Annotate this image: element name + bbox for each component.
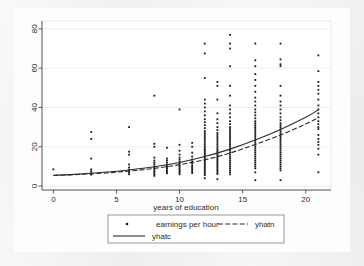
data-point bbox=[229, 169, 231, 171]
data-point bbox=[191, 152, 193, 154]
data-point bbox=[254, 43, 256, 45]
data-point bbox=[280, 166, 282, 168]
data-point bbox=[254, 156, 256, 158]
data-point bbox=[280, 112, 282, 114]
data-point bbox=[254, 166, 256, 168]
data-point bbox=[317, 54, 319, 56]
data-point bbox=[204, 140, 206, 142]
data-point bbox=[280, 58, 282, 60]
data-point bbox=[229, 154, 231, 156]
data-point bbox=[217, 136, 219, 138]
data-point bbox=[254, 65, 256, 67]
data-point bbox=[217, 142, 219, 144]
data-point bbox=[280, 138, 282, 140]
data-point bbox=[217, 154, 219, 156]
legend-label-yhatn: yhatn bbox=[255, 220, 275, 229]
data-point bbox=[153, 146, 155, 148]
y-tick-label: 60 bbox=[31, 63, 40, 72]
data-point bbox=[217, 170, 219, 172]
data-point bbox=[217, 134, 219, 136]
data-point bbox=[280, 105, 282, 107]
data-point bbox=[229, 164, 231, 166]
data-point bbox=[128, 173, 130, 175]
data-point bbox=[254, 158, 256, 160]
data-point bbox=[217, 157, 219, 159]
data-point bbox=[204, 118, 206, 120]
data-point bbox=[166, 147, 168, 149]
data-point bbox=[280, 132, 282, 134]
data-point bbox=[254, 130, 256, 132]
data-point bbox=[166, 172, 168, 174]
data-point bbox=[317, 99, 319, 101]
data-point bbox=[217, 122, 219, 124]
data-point bbox=[153, 170, 155, 172]
data-point bbox=[217, 81, 219, 83]
data-point bbox=[280, 140, 282, 142]
data-point bbox=[254, 97, 256, 99]
data-point bbox=[254, 59, 256, 61]
data-point bbox=[204, 162, 206, 164]
data-point bbox=[229, 138, 231, 140]
data-point bbox=[229, 85, 231, 87]
data-point bbox=[280, 164, 282, 166]
data-point bbox=[317, 134, 319, 136]
y-tick-label: 80 bbox=[31, 24, 40, 33]
data-point bbox=[179, 159, 181, 161]
data-point bbox=[229, 109, 231, 111]
data-point bbox=[90, 168, 92, 170]
data-point bbox=[280, 109, 282, 111]
x-tick-label: 5 bbox=[114, 195, 119, 204]
data-point bbox=[280, 126, 282, 128]
data-point bbox=[191, 146, 193, 148]
data-point bbox=[204, 147, 206, 149]
data-point bbox=[280, 124, 282, 126]
data-point bbox=[217, 146, 219, 148]
data-point bbox=[179, 166, 181, 168]
earnings-education-scatter-chart: 020406080 05101520 years of education ea… bbox=[0, 0, 364, 266]
data-point bbox=[204, 99, 206, 101]
data-point bbox=[204, 149, 206, 151]
data-point bbox=[153, 95, 155, 97]
data-point bbox=[229, 146, 231, 148]
data-point bbox=[280, 169, 282, 171]
data-point bbox=[254, 171, 256, 173]
data-point bbox=[204, 43, 206, 45]
data-point bbox=[317, 138, 319, 140]
data-point bbox=[317, 85, 319, 87]
legend-label-earnings-per-hour: earnings per hour bbox=[156, 220, 219, 229]
data-point bbox=[317, 144, 319, 146]
data-point bbox=[280, 144, 282, 146]
data-point bbox=[204, 107, 206, 109]
data-point bbox=[191, 156, 193, 158]
x-tick-label: 15 bbox=[238, 195, 247, 204]
data-point bbox=[280, 160, 282, 162]
data-point bbox=[217, 138, 219, 140]
data-point bbox=[229, 136, 231, 138]
data-point bbox=[254, 150, 256, 152]
data-point bbox=[229, 132, 231, 134]
data-point bbox=[254, 105, 256, 107]
y-tick-label: 0 bbox=[31, 183, 40, 188]
data-point bbox=[229, 158, 231, 160]
data-point bbox=[153, 172, 155, 174]
data-point bbox=[191, 142, 193, 144]
data-point bbox=[280, 154, 282, 156]
data-point bbox=[204, 132, 206, 134]
data-point bbox=[153, 160, 155, 162]
data-point bbox=[280, 146, 282, 148]
data-point bbox=[254, 148, 256, 150]
data-point bbox=[204, 130, 206, 132]
data-point bbox=[317, 154, 319, 156]
data-point bbox=[280, 65, 282, 67]
data-point bbox=[166, 168, 168, 170]
data-point bbox=[254, 114, 256, 116]
data-point bbox=[317, 171, 319, 173]
data-point bbox=[204, 171, 206, 173]
data-point bbox=[217, 99, 219, 101]
data-point bbox=[254, 136, 256, 138]
data-point bbox=[217, 118, 219, 120]
data-point bbox=[217, 159, 219, 161]
data-point bbox=[317, 126, 319, 128]
data-point bbox=[280, 162, 282, 164]
data-point bbox=[204, 177, 206, 179]
